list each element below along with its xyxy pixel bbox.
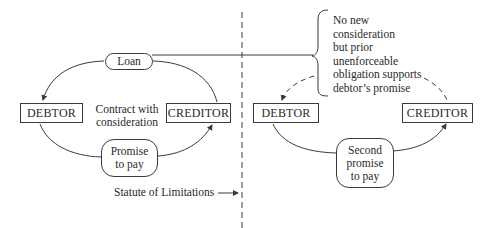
loan-label: Loan [117,55,141,68]
debtor-box-right: DEBTOR [253,103,319,123]
promise-line2: to pay [115,158,143,171]
promise-line1: Promise [111,145,149,158]
promise-arc-left [40,124,101,157]
second-promise-arc-left [273,124,336,153]
note-line: debtor’s promise [333,82,422,96]
debtor-box-left: DEBTOR [20,103,83,123]
curly-brace [312,10,328,96]
debtor-label-right: DEBTOR [262,106,311,121]
loan-arc-right [153,61,217,102]
creditor-label-right: CREDITOR [407,106,468,121]
dashed-arc-right [424,78,448,102]
loan-pill: Loan [105,53,153,70]
promise-pill: Promise to pay [101,139,158,177]
contract-with-consideration-label: Contract with consideration [94,103,160,129]
note-line: No new [333,14,422,28]
second-promise-arc-right [393,124,446,151]
creditor-box-left: CREDITOR [166,103,231,123]
note-line: obligation supports [333,68,422,82]
note-line: consideration [333,28,422,42]
second-promise-line3: to pay [351,170,379,183]
note-line: but prior [333,41,422,55]
second-promise-line1: Second [348,144,382,157]
debtor-label-left: DEBTOR [27,106,76,121]
center-label-line2: consideration [94,116,160,129]
consideration-note: No new consideration but prior unenforce… [333,14,422,96]
loan-arc-left [43,61,104,100]
second-promise-pill: Second promise to pay [336,138,394,188]
promise-arc-right [158,125,212,156]
statute-of-limitations-label: Statute of Limitations [114,186,214,199]
dashed-arc-left [282,76,314,100]
creditor-box-right: CREDITOR [402,103,473,123]
center-label-line1: Contract with [94,103,160,116]
creditor-label-left: CREDITOR [168,106,229,121]
second-promise-line2: promise [346,157,383,170]
note-line: unenforceable [333,55,422,69]
